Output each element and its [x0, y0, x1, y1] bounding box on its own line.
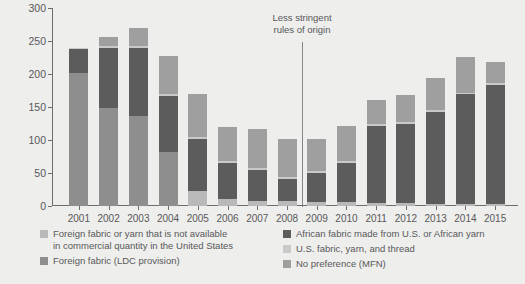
x-tick-mark — [198, 206, 199, 210]
y-tick-label: 300 — [28, 2, 46, 14]
y-tick-mark — [48, 74, 52, 75]
bar-segment — [99, 37, 118, 46]
bar-segment — [159, 96, 178, 152]
bar-2013[interactable] — [426, 78, 445, 206]
bar-segment — [129, 28, 148, 46]
x-tick-mark — [228, 206, 229, 210]
bar-segment — [307, 202, 326, 206]
legend-no-preference-mfn[interactable]: No preference (MFN) — [283, 258, 525, 270]
bar-segment — [278, 179, 297, 201]
y-axis-line — [52, 8, 53, 206]
x-tick-label: 2009 — [306, 213, 328, 224]
legend-label: Foreign fabric (LDC provision) — [53, 255, 180, 267]
bar-segment — [337, 126, 356, 162]
chart-legend: Foreign fabric or yarn that is not avail… — [0, 228, 525, 284]
bar-segment — [188, 191, 207, 206]
y-tick-label: 0 — [40, 200, 46, 212]
legend-label: African fabric made from U.S. or African… — [296, 228, 484, 240]
bar-2005[interactable] — [188, 94, 207, 206]
x-tick-mark — [109, 206, 110, 210]
x-tick-label: 2010 — [335, 213, 357, 224]
bar-2012[interactable] — [396, 95, 415, 206]
bar-segment — [426, 204, 445, 206]
bar-segment — [69, 73, 88, 206]
bar-segment — [456, 94, 475, 204]
x-tick-mark — [346, 206, 347, 210]
bar-2003[interactable] — [129, 28, 148, 206]
bar-segment — [99, 108, 118, 206]
x-tick-label: 2001 — [68, 213, 90, 224]
bar-2001[interactable] — [69, 48, 88, 206]
bar-segment — [159, 56, 178, 94]
bar-2015[interactable] — [486, 62, 505, 207]
bar-segment — [99, 48, 118, 108]
legend-african-fabric[interactable]: African fabric made from U.S. or African… — [283, 228, 525, 240]
legend-foreign-fabric-ldc[interactable]: Foreign fabric (LDC provision) — [40, 255, 290, 267]
bar-segment — [337, 202, 356, 206]
bar-segment — [456, 57, 475, 93]
legend-swatch-icon — [40, 257, 48, 265]
bar-segment — [129, 48, 148, 116]
legend-swatch-icon — [40, 230, 48, 238]
legend-swatch-icon — [283, 260, 291, 268]
x-tick-mark — [495, 206, 496, 210]
legend-label: No preference (MFN) — [296, 258, 386, 270]
bar-segment — [218, 127, 237, 161]
bar-segment — [278, 201, 297, 206]
legend-swatch-icon — [283, 245, 291, 253]
bar-2008[interactable] — [278, 139, 297, 206]
bar-segment — [486, 204, 505, 206]
plot-inner: 050100150200250300 200120022003200420052… — [52, 8, 518, 206]
x-tick-label: 2006 — [216, 213, 238, 224]
bar-segment — [188, 139, 207, 191]
legend-column-left: Foreign fabric or yarn that is not avail… — [40, 228, 290, 270]
bar-2007[interactable] — [248, 129, 267, 206]
x-tick-label: 2011 — [365, 213, 387, 224]
bar-segment — [69, 49, 88, 73]
x-tick-mark — [79, 206, 80, 210]
bar-2009[interactable] — [307, 139, 326, 206]
y-tick-label: 50 — [34, 167, 46, 179]
bar-2002[interactable] — [99, 37, 118, 206]
bar-2014[interactable] — [456, 57, 475, 206]
x-tick-label: 2008 — [276, 213, 298, 224]
legend-label: Foreign fabric or yarn that is not avail… — [53, 228, 233, 252]
bar-segment — [396, 95, 415, 122]
bar-2004[interactable] — [159, 56, 178, 206]
bar-segment — [367, 126, 386, 203]
x-tick-mark — [317, 206, 318, 210]
x-tick-label: 2004 — [157, 213, 179, 224]
bar-segment — [278, 139, 297, 177]
y-tick-mark — [48, 206, 52, 207]
bar-segment — [218, 163, 237, 199]
legend-us-fabric[interactable]: U.S. fabric, yarn, and thread — [283, 243, 525, 255]
y-tick-label: 250 — [28, 35, 46, 47]
bar-2010[interactable] — [337, 126, 356, 206]
bar-segment — [486, 85, 505, 204]
bar-2011[interactable] — [367, 100, 386, 206]
bar-segment — [307, 173, 326, 202]
bar-segment — [486, 62, 505, 83]
bar-segment — [426, 112, 445, 204]
x-tick-label: 2014 — [454, 213, 476, 224]
y-tick-mark — [48, 41, 52, 42]
y-tick-mark — [48, 8, 52, 9]
x-tick-mark — [376, 206, 377, 210]
bar-segment — [426, 78, 445, 110]
x-tick-label: 2003 — [127, 213, 149, 224]
x-tick-label: 2015 — [484, 213, 506, 224]
bar-2006[interactable] — [218, 127, 237, 206]
legend-swatch-icon — [283, 230, 291, 238]
x-tick-mark — [406, 206, 407, 210]
chart-figure: Apparel exports (US$, millions) Less str… — [0, 0, 525, 284]
bar-segment — [396, 203, 415, 206]
y-tick-label: 150 — [28, 101, 46, 113]
x-tick-mark — [436, 206, 437, 210]
x-tick-label: 2007 — [246, 213, 268, 224]
legend-foreign-fabric-or-yarn[interactable]: Foreign fabric or yarn that is not avail… — [40, 228, 290, 252]
legend-label: U.S. fabric, yarn, and thread — [296, 243, 415, 255]
x-tick-label: 2002 — [97, 213, 119, 224]
bar-segment — [248, 129, 267, 167]
bar-segment — [248, 170, 267, 201]
x-tick-mark — [257, 206, 258, 210]
